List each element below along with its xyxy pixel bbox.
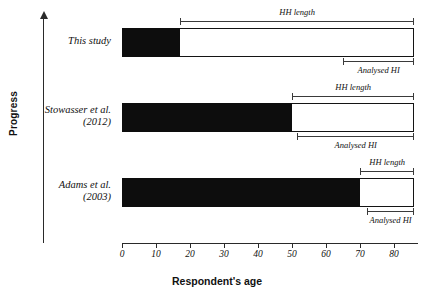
measure-bracket [292,93,414,100]
bracket-cap-left [343,58,344,65]
x-tick-label: 10 [143,249,169,259]
x-tick-label: 40 [245,249,271,259]
category-label-line-2: (2012) [83,116,111,127]
bracket-cap-right [413,208,414,215]
bracket-line [180,21,415,22]
category-label-line-2: (2003) [83,191,111,202]
bracket-cap-right [413,18,414,25]
hh-length-label: HH length [292,82,414,92]
category-label-line-1: This study [68,35,111,46]
hh-length-label: HH length [180,7,415,17]
x-tick [326,243,327,248]
bracket-cap-right [413,168,414,175]
x-tick-label: 80 [381,249,407,259]
x-tick-label: 0 [109,249,135,259]
category-label-this-study: This study [0,26,118,56]
bracket-cap-left [297,133,298,140]
category-label-line-1: Stowasser et al. [45,104,111,115]
x-tick [190,243,191,248]
bar-filled-segment [122,178,360,207]
measure-bracket [367,208,415,215]
bar-filled-segment [122,28,180,57]
measure-bracket [297,133,414,140]
bracket-line [360,171,414,172]
measure-bracket [180,18,415,25]
bracket-cap-left [367,208,368,215]
x-axis-line [122,243,418,244]
x-axis-title: Respondent's age [0,275,434,287]
bracket-cap-right [413,93,414,100]
bracket-cap-right [413,133,414,140]
bracket-line [343,61,414,62]
hh-length-label: HH length [360,157,414,167]
measure-bracket [360,168,414,175]
bar-filled-segment [122,103,292,132]
x-tick-label: 70 [347,249,373,259]
analysed-hi-label: Analysed HI [297,140,414,150]
x-tick [292,243,293,248]
bracket-cap-left [360,168,361,175]
x-tick-label: 30 [211,249,237,259]
category-label-line-1: Adams et al. [59,179,111,190]
bracket-line [367,211,415,212]
x-tick-label: 60 [313,249,339,259]
x-tick-label: 50 [279,249,305,259]
y-axis-arrow-icon [40,11,48,19]
bracket-cap-left [180,18,181,25]
x-tick [258,243,259,248]
category-label-adams: Adams et al. (2003) [0,176,118,206]
figure-bar-chart-progress: Progress This study Stowasser et al. (20… [0,0,434,302]
x-tick-label: 20 [177,249,203,259]
analysed-hi-label: Analysed HI [367,215,415,225]
measure-bracket [343,58,414,65]
bracket-line [297,136,414,137]
analysed-hi-label: Analysed HI [343,65,414,75]
bracket-cap-right [413,58,414,65]
bracket-cap-left [292,93,293,100]
x-tick [156,243,157,248]
category-label-stowasser: Stowasser et al. (2012) [0,101,118,131]
x-tick [394,243,395,248]
bracket-line [292,96,414,97]
plot-area: HH lengthAnalysed HIHH lengthAnalysed HI… [122,0,422,302]
x-tick [224,243,225,248]
x-tick [360,243,361,248]
x-tick [122,243,123,248]
